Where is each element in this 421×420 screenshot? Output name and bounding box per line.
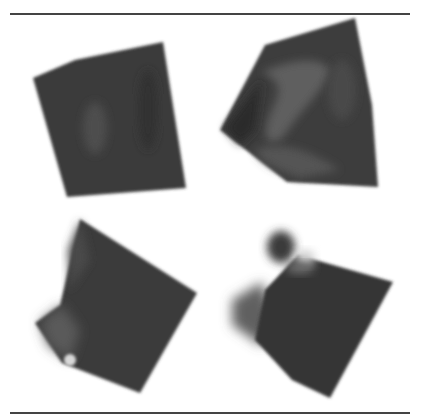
shading-highlight [328, 60, 356, 120]
cube-volume-bottom-right [255, 255, 393, 398]
shading-highlight [286, 262, 314, 274]
shading-highlight [83, 102, 107, 154]
figure-canvas [0, 0, 421, 420]
panel-bottom-right [232, 231, 393, 398]
panel-top-left [33, 42, 186, 197]
panel-bottom-left [35, 219, 197, 393]
rounded-blob [267, 231, 295, 263]
light-spot [64, 354, 76, 366]
shading-shadow [138, 70, 158, 150]
panel-top-right [220, 18, 378, 187]
bottom-rule [10, 412, 410, 414]
cube-volume-bottom-left [35, 219, 197, 393]
cube-volume-top-left [33, 42, 186, 197]
